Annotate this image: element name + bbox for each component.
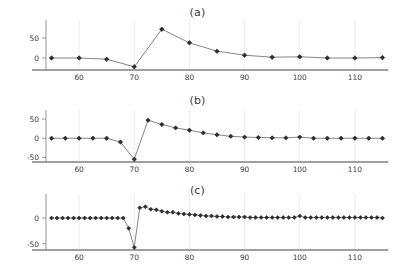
data-point-marker bbox=[314, 216, 318, 220]
x-tick-label: 70 bbox=[130, 253, 140, 262]
x-tick-label: 100 bbox=[293, 253, 307, 262]
data-point-marker bbox=[270, 55, 275, 60]
data-point-marker bbox=[270, 136, 274, 140]
y-tick-label: 50 bbox=[30, 34, 40, 43]
y-tick-label: 50 bbox=[30, 115, 40, 124]
y-tick-label: 0 bbox=[34, 134, 39, 143]
data-point-marker bbox=[215, 133, 219, 137]
data-point-marker bbox=[320, 216, 324, 220]
data-point-marker bbox=[104, 136, 108, 140]
x-tick-label: 90 bbox=[240, 73, 250, 82]
data-point-marker bbox=[353, 56, 358, 61]
data-point-marker bbox=[91, 136, 95, 140]
data-point-marker bbox=[63, 136, 67, 140]
data-point-marker bbox=[256, 135, 260, 139]
figure-canvas: (a) 05060708090100110 (b) -5005060708090… bbox=[0, 0, 395, 276]
panel-a-plot: 05060708090100110 bbox=[0, 0, 395, 92]
data-point-marker bbox=[248, 216, 252, 220]
data-point-marker bbox=[281, 216, 285, 220]
data-point-marker bbox=[49, 136, 53, 140]
data-point-marker bbox=[160, 122, 164, 126]
y-tick-label: 0 bbox=[34, 54, 39, 63]
data-point-marker bbox=[165, 210, 169, 214]
data-point-marker bbox=[336, 216, 340, 220]
data-point-marker bbox=[149, 207, 153, 211]
data-point-marker bbox=[182, 212, 186, 216]
x-tick-label: 90 bbox=[240, 253, 250, 262]
data-point-marker bbox=[339, 136, 343, 140]
data-point-marker bbox=[88, 216, 92, 220]
data-point-marker bbox=[187, 41, 192, 46]
data-point-marker bbox=[298, 214, 302, 218]
data-point-marker bbox=[242, 135, 246, 139]
data-series-line bbox=[52, 120, 383, 159]
data-point-marker bbox=[77, 56, 82, 61]
data-point-marker bbox=[116, 216, 120, 220]
data-point-marker bbox=[311, 136, 315, 140]
x-tick-label: 60 bbox=[74, 73, 84, 82]
data-point-marker bbox=[99, 216, 103, 220]
data-point-marker bbox=[276, 216, 280, 220]
data-point-marker bbox=[198, 213, 202, 217]
data-point-marker bbox=[325, 56, 330, 61]
data-point-marker bbox=[243, 215, 247, 219]
x-tick-label: 70 bbox=[130, 73, 140, 82]
data-point-marker bbox=[226, 215, 230, 219]
data-point-marker bbox=[173, 126, 177, 130]
data-point-marker bbox=[187, 128, 191, 132]
data-point-marker bbox=[50, 216, 54, 220]
data-point-marker bbox=[369, 216, 373, 220]
data-point-marker bbox=[229, 134, 233, 138]
x-tick-label: 110 bbox=[348, 73, 362, 82]
data-point-marker bbox=[297, 55, 302, 60]
data-point-marker bbox=[259, 216, 263, 220]
data-point-marker bbox=[176, 211, 180, 215]
data-point-marker bbox=[110, 216, 114, 220]
data-point-marker bbox=[143, 205, 147, 209]
data-point-marker bbox=[380, 55, 385, 60]
data-point-marker bbox=[331, 216, 335, 220]
data-point-marker bbox=[265, 216, 269, 220]
data-point-marker bbox=[292, 216, 296, 220]
data-point-marker bbox=[201, 131, 205, 135]
data-series-line bbox=[52, 207, 383, 248]
data-series-line bbox=[52, 29, 383, 67]
data-point-marker bbox=[66, 216, 70, 220]
x-tick-label: 90 bbox=[240, 165, 250, 174]
data-point-marker bbox=[232, 215, 236, 219]
data-point-marker bbox=[132, 245, 136, 249]
y-tick-label: -50 bbox=[27, 153, 39, 162]
data-point-marker bbox=[242, 53, 247, 58]
data-point-marker bbox=[104, 57, 109, 62]
data-point-marker bbox=[72, 216, 76, 220]
data-point-marker bbox=[204, 214, 208, 218]
data-point-marker bbox=[325, 216, 329, 220]
data-point-marker bbox=[94, 216, 98, 220]
data-point-marker bbox=[77, 216, 81, 220]
data-point-marker bbox=[303, 216, 307, 220]
data-point-marker bbox=[83, 216, 87, 220]
data-point-marker bbox=[105, 216, 109, 220]
data-point-marker bbox=[215, 49, 220, 54]
x-tick-label: 60 bbox=[74, 165, 84, 174]
x-tick-label: 100 bbox=[293, 73, 307, 82]
x-tick-label: 60 bbox=[74, 253, 84, 262]
data-point-marker bbox=[358, 216, 362, 220]
x-tick-label: 80 bbox=[185, 253, 195, 262]
data-point-marker bbox=[160, 209, 164, 213]
data-point-marker bbox=[342, 216, 346, 220]
panel-c-plot: -50060708090100110 bbox=[0, 182, 395, 276]
data-point-marker bbox=[127, 226, 131, 230]
data-point-marker bbox=[121, 216, 125, 220]
data-point-marker bbox=[380, 216, 384, 220]
x-tick-label: 110 bbox=[348, 165, 362, 174]
data-point-marker bbox=[77, 136, 81, 140]
data-point-marker bbox=[215, 214, 219, 218]
panel-a: (a) 05060708090100110 bbox=[0, 0, 395, 92]
data-point-marker bbox=[347, 216, 351, 220]
data-point-marker bbox=[193, 213, 197, 217]
x-tick-label: 70 bbox=[130, 165, 140, 174]
panel-b: (b) -5005060708090100110 bbox=[0, 90, 395, 184]
data-point-marker bbox=[353, 136, 357, 140]
data-point-marker bbox=[61, 216, 65, 220]
